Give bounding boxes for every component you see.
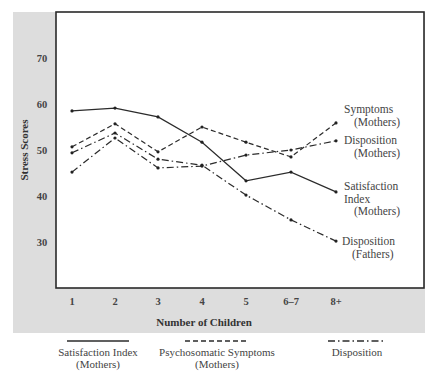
data-point xyxy=(200,164,203,167)
data-point xyxy=(289,155,292,158)
data-point xyxy=(113,136,116,139)
series-annotation-text: Disposition xyxy=(342,235,395,248)
legend-item: Psychosomatic Symptoms(Mothers) xyxy=(159,341,275,371)
data-point xyxy=(200,141,203,144)
y-tick-label: 40 xyxy=(37,191,48,202)
series-annotation-text: Symptoms xyxy=(344,103,394,116)
data-point xyxy=(289,171,292,174)
data-point xyxy=(113,131,116,134)
y-tick-label: 60 xyxy=(37,99,48,110)
data-point xyxy=(289,148,292,151)
y-tick-label: 50 xyxy=(37,145,48,156)
data-point xyxy=(334,139,337,142)
stress-scores-line-chart: Stress Scores Number of Children 3040506… xyxy=(0,0,431,379)
x-tick-label: 5 xyxy=(243,296,248,307)
x-tick-label: 1 xyxy=(69,296,74,307)
legend-label: Disposition xyxy=(332,346,383,358)
data-point xyxy=(334,121,337,124)
data-point xyxy=(70,151,73,154)
data-point xyxy=(200,125,203,128)
legend: Satisfaction Index(Mothers)Psychosomatic… xyxy=(58,341,386,371)
x-tick-label: 8+ xyxy=(330,296,341,307)
legend-label: (Mothers) xyxy=(195,358,239,371)
series-annotation-text: Satisfaction xyxy=(344,180,399,192)
series-annotation-text: (Fathers) xyxy=(352,248,394,261)
x-tick-label: 2 xyxy=(112,296,117,307)
data-point xyxy=(244,179,247,182)
y-tick-label: 30 xyxy=(37,237,48,248)
series-annotation-text: (Mothers) xyxy=(354,147,400,160)
legend-label: (Mothers) xyxy=(76,358,120,371)
x-tick-label: 3 xyxy=(155,296,160,307)
data-point xyxy=(113,122,116,125)
data-point xyxy=(244,154,247,157)
data-point xyxy=(70,109,73,112)
data-point xyxy=(70,145,73,148)
series-annotation-text: Disposition xyxy=(344,134,397,147)
data-point xyxy=(156,150,159,153)
series-annotation-text: (Mothers) xyxy=(354,205,400,218)
legend-item: Satisfaction Index(Mothers) xyxy=(58,341,138,371)
data-point xyxy=(289,218,292,221)
series-annotation-text: (Mothers) xyxy=(354,116,400,129)
x-tick-label: 4 xyxy=(199,296,205,307)
series-annotation-text: Index xyxy=(344,193,370,205)
legend-item: Disposition xyxy=(328,341,386,358)
y-tick-label: 70 xyxy=(37,53,48,64)
data-point xyxy=(244,194,247,197)
data-point xyxy=(334,240,337,243)
x-axis-title: Number of Children xyxy=(156,316,252,328)
x-tick-label: 6–7 xyxy=(283,296,299,307)
legend-label: Psychosomatic Symptoms xyxy=(159,346,275,358)
data-point xyxy=(244,141,247,144)
legend-label: Satisfaction Index xyxy=(58,346,138,358)
data-point xyxy=(70,171,73,174)
data-point xyxy=(156,115,159,118)
data-point xyxy=(156,166,159,169)
y-axis-title: Stress Scores xyxy=(18,119,30,181)
data-point xyxy=(334,190,337,193)
data-point xyxy=(156,158,159,161)
data-point xyxy=(113,107,116,110)
